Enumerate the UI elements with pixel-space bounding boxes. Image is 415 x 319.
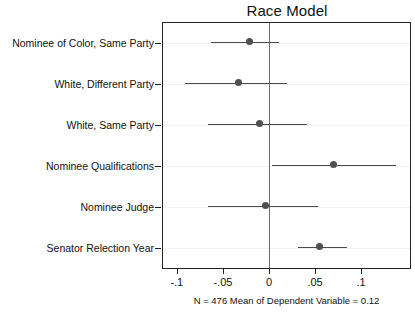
estimate-row (163, 201, 410, 213)
x-axis-tick-label: .05 (293, 276, 337, 289)
x-axis-tick-label: .1 (339, 276, 383, 289)
estimate-row (163, 37, 410, 49)
y-axis-tick-label: White, Different Party (0, 78, 154, 90)
estimate-row (163, 78, 410, 90)
x-axis-tick (223, 269, 224, 274)
y-axis-tick (155, 207, 161, 208)
x-axis-tick (315, 269, 316, 274)
y-axis-tick (155, 84, 161, 85)
confidence-interval-bar (211, 42, 279, 43)
point-estimate-marker (235, 79, 242, 86)
x-axis-tick (361, 269, 362, 274)
point-estimate-marker (262, 202, 269, 209)
x-axis-tick-label: 0 (247, 276, 291, 289)
y-axis-tick (155, 125, 161, 126)
y-axis-tick-label: White, Same Party (0, 119, 154, 131)
chart-annotation: N = 476 Mean of Dependent Variable = 0.1… (162, 295, 411, 307)
x-axis-tick (177, 269, 178, 274)
x-axis-tick (269, 269, 270, 274)
point-estimate-marker (246, 38, 253, 45)
x-axis-tick-label: -.1 (155, 276, 199, 289)
x-axis-tick-label: -.05 (201, 276, 245, 289)
y-axis-tick-label: Senator Relection Year (0, 242, 154, 254)
y-axis-tick (155, 166, 161, 167)
chart-title: Race Model (162, 2, 412, 20)
zero-reference-line (269, 23, 270, 268)
y-axis-tick-label: Nominee Judge (0, 201, 154, 213)
estimate-row (163, 242, 410, 254)
y-axis-tick-label: Nominee Qualifications (0, 160, 154, 172)
point-estimate-marker (316, 243, 323, 250)
y-axis-tick-label: Nominee of Color, Same Party (0, 37, 154, 49)
plot-area (162, 22, 411, 269)
race-model-coefficient-plot: Race Model Nominee of Color, Same PartyW… (0, 0, 415, 319)
point-estimate-marker (330, 161, 337, 168)
point-estimate-marker (256, 120, 263, 127)
estimate-row (163, 119, 410, 131)
y-axis-tick (155, 248, 161, 249)
estimate-row (163, 160, 410, 172)
y-axis-tick (155, 43, 161, 44)
